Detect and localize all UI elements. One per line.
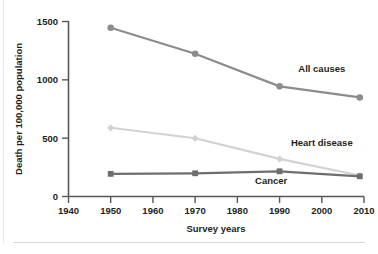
data-point-marker — [192, 51, 199, 58]
x-tick-label: 1950 — [100, 205, 121, 216]
data-point-marker — [276, 83, 283, 90]
series-label-all-causes: All causes — [298, 63, 345, 74]
data-point-marker — [357, 173, 363, 179]
x-axis-tick-labels: 19401950196019701980199020002010 — [58, 205, 375, 216]
chart-series-group — [107, 25, 363, 180]
x-tick-label: 1980 — [227, 205, 248, 216]
series-heart-disease — [107, 124, 363, 179]
y-axis-tick-labels: 050010001500 — [37, 16, 58, 202]
y-tick-label: 1500 — [37, 16, 58, 27]
series-line — [111, 171, 360, 176]
data-point-marker — [107, 124, 114, 131]
chart-figure: 050010001500 194019501960197019801990200… — [0, 0, 378, 254]
y-tick-label: 0 — [53, 191, 58, 202]
data-point-marker — [356, 94, 363, 101]
series-line — [111, 128, 360, 176]
series-label-cancer: Cancer — [255, 175, 288, 186]
x-tick-label: 2000 — [311, 205, 332, 216]
x-tick-label: 1990 — [269, 205, 290, 216]
data-point-marker — [276, 155, 283, 162]
y-axis-ticks — [62, 22, 69, 197]
x-axis-title: Survey years — [186, 223, 245, 234]
y-tick-label: 1000 — [37, 74, 58, 85]
chart-axes — [69, 21, 365, 197]
line-chart: 050010001500 194019501960197019801990200… — [0, 0, 378, 254]
y-axis-title: Death per 100,000 population — [13, 43, 24, 175]
x-tick-label: 2010 — [353, 205, 374, 216]
data-point-marker — [192, 170, 198, 176]
x-axis-ticks — [69, 197, 365, 204]
x-tick-label: 1970 — [185, 205, 206, 216]
series-cancer — [108, 168, 363, 179]
series-label-heart-disease: Heart disease — [291, 137, 353, 148]
data-point-marker — [277, 168, 283, 174]
data-point-marker — [108, 171, 114, 177]
data-point-marker — [192, 135, 199, 142]
y-tick-label: 500 — [42, 133, 58, 144]
x-tick-label: 1940 — [58, 205, 79, 216]
x-tick-label: 1960 — [142, 205, 163, 216]
data-point-marker — [107, 25, 114, 32]
